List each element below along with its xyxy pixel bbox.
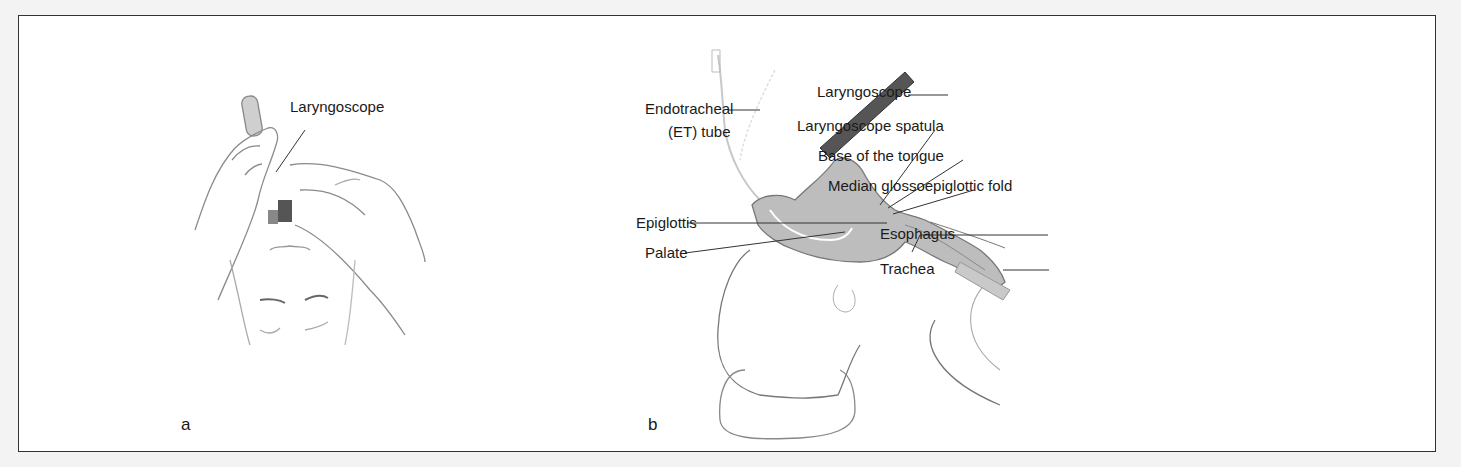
label-et-tube-line1: Endotracheal [645,100,733,117]
label-median-glossoepiglottic-fold: Median glossoepiglottic fold [828,177,1012,194]
label-esophagus: Esophagus [880,225,955,242]
panel-letter-b: b [648,415,657,435]
label-laryngoscope-spatula: Laryngoscope spatula [797,117,944,134]
label-base-of-tongue: Base of the tongue [818,147,944,164]
label-epiglottis: Epiglottis [636,214,697,231]
label-trachea: Trachea [880,260,934,277]
intubation-illustration [0,0,1461,467]
label-laryngoscope-a: Laryngoscope [290,98,384,115]
panel-b-drawing [712,50,1010,439]
panel-letter-a: a [181,415,190,435]
label-et-tube-line2: (ET) tube [668,123,731,140]
panel-a-drawing [195,95,425,345]
label-palate: Palate [645,244,688,261]
label-laryngoscope-b: Laryngoscope [817,83,911,100]
